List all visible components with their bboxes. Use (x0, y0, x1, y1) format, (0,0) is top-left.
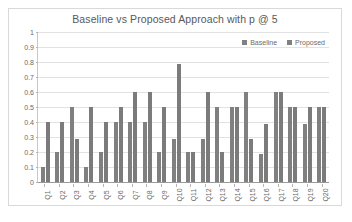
bar-proposed-q20[interactable] (322, 107, 326, 182)
bar-group (125, 32, 140, 182)
x-axis-cell: Q15 (241, 184, 256, 214)
bar-group (111, 32, 126, 182)
x-axis-cell: Q4 (81, 184, 96, 214)
x-axis-tick (205, 184, 206, 187)
x-axis-tick (103, 184, 104, 187)
x-axis-cell: Q11 (183, 184, 198, 214)
x-axis-cell: Q17 (271, 184, 286, 214)
x-axis-tick (146, 184, 147, 187)
x-axis-tick (132, 184, 133, 187)
bar-baseline-q18[interactable] (288, 107, 292, 182)
x-axis-label-q17: Q17 (278, 188, 285, 201)
x-axis-tick (73, 184, 74, 187)
x-axis-tick (219, 184, 220, 187)
bar-group (300, 32, 315, 182)
y-axis-label: 0.1 (24, 164, 34, 171)
bar-baseline-q2[interactable] (55, 152, 59, 182)
x-axis-label-q19: Q19 (307, 188, 314, 201)
y-axis-label: 0.8 (24, 59, 34, 66)
bar-baseline-q5[interactable] (99, 152, 103, 182)
bar-baseline-q8[interactable] (143, 122, 147, 182)
bar-baseline-q3[interactable] (70, 107, 74, 182)
bar-proposed-q9[interactable] (162, 107, 166, 182)
bar-proposed-q5[interactable] (104, 122, 108, 182)
bar-group (169, 32, 184, 182)
bar-baseline-q10[interactable] (172, 139, 176, 183)
bar-group (242, 32, 257, 182)
chart-container: Baseline vs Proposed Approach with p @ 5… (8, 8, 342, 206)
plot-area: 10.90.80.70.60.50.40.30.20.10 (37, 32, 329, 183)
y-axis-label: 0.7 (24, 74, 34, 81)
x-axis-cell: Q18 (285, 184, 300, 214)
bars-layer (38, 32, 329, 182)
bar-baseline-q1[interactable] (41, 167, 45, 182)
bar-proposed-q10[interactable] (177, 64, 181, 183)
bar-proposed-q8[interactable] (148, 92, 152, 182)
x-axis-cell: Q13 (212, 184, 227, 214)
bar-group (227, 32, 242, 182)
bar-proposed-q17[interactable] (279, 92, 283, 182)
bar-baseline-q13[interactable] (215, 107, 219, 182)
x-axis-cell: Q8 (139, 184, 154, 214)
x-axis-label-q2: Q2 (59, 190, 66, 199)
x-axis-cell: Q9 (154, 184, 169, 214)
bar-baseline-q17[interactable] (274, 92, 278, 182)
x-axis-label-q16: Q16 (263, 188, 270, 201)
bar-group (314, 32, 329, 182)
bar-proposed-q12[interactable] (206, 92, 210, 182)
bar-baseline-q19[interactable] (303, 124, 307, 183)
x-axis-tick (88, 184, 89, 187)
bar-proposed-q3[interactable] (75, 139, 79, 183)
x-axis-label-q13: Q13 (219, 188, 226, 201)
bar-proposed-q19[interactable] (308, 107, 312, 182)
bar-proposed-q13[interactable] (220, 152, 224, 182)
x-axis-cell: Q12 (198, 184, 213, 214)
bar-baseline-q16[interactable] (259, 154, 263, 183)
bar-proposed-q2[interactable] (60, 122, 64, 182)
bar-baseline-q12[interactable] (201, 139, 205, 183)
x-axis-tick (234, 184, 235, 187)
x-axis-tick (161, 184, 162, 187)
x-axis-label-q10: Q10 (176, 188, 183, 201)
x-axis-cell: Q3 (66, 184, 81, 214)
bar-baseline-q14[interactable] (230, 107, 234, 182)
bar-group (154, 32, 169, 182)
x-axis-label-q8: Q8 (146, 190, 153, 199)
y-axis-label: 0.5 (24, 104, 34, 111)
bar-group (82, 32, 97, 182)
bar-baseline-q11[interactable] (186, 152, 190, 182)
bar-proposed-q1[interactable] (46, 122, 50, 182)
x-axis-tick (59, 184, 60, 187)
bar-baseline-q9[interactable] (157, 152, 161, 182)
x-axis-tick (176, 184, 177, 187)
x-axis-tick (190, 184, 191, 187)
x-axis-label-q7: Q7 (132, 190, 139, 199)
bar-baseline-q6[interactable] (114, 122, 118, 182)
bar-baseline-q15[interactable] (244, 92, 248, 182)
x-axis-cell: Q19 (300, 184, 315, 214)
x-axis-cell: Q2 (52, 184, 67, 214)
x-axis-label-q5: Q5 (103, 190, 110, 199)
bar-proposed-q15[interactable] (249, 139, 253, 183)
y-axis-label: 1 (30, 29, 34, 36)
bar-baseline-q20[interactable] (317, 107, 321, 182)
bar-proposed-q11[interactable] (191, 152, 195, 182)
x-axis-cell: Q5 (95, 184, 110, 214)
bar-baseline-q7[interactable] (128, 122, 132, 182)
bar-proposed-q4[interactable] (89, 107, 93, 182)
bar-proposed-q14[interactable] (235, 107, 239, 182)
bar-proposed-q6[interactable] (119, 107, 123, 182)
x-axis-tick (307, 184, 308, 187)
x-axis: Q1Q2Q3Q4Q5Q6Q7Q8Q9Q10Q11Q12Q13Q14Q15Q16Q… (37, 184, 329, 214)
y-axis-label: 0.4 (24, 119, 34, 126)
bar-proposed-q7[interactable] (133, 92, 137, 182)
bar-proposed-q16[interactable] (264, 124, 268, 183)
y-axis-label: 0.6 (24, 89, 34, 96)
x-axis-label-q1: Q1 (44, 190, 51, 199)
x-axis-label-q3: Q3 (73, 190, 80, 199)
x-axis-tick (263, 184, 264, 187)
bar-baseline-q4[interactable] (84, 167, 88, 182)
x-axis-cell: Q20 (314, 184, 329, 214)
bar-proposed-q18[interactable] (293, 107, 297, 182)
x-axis-cell: Q10 (168, 184, 183, 214)
